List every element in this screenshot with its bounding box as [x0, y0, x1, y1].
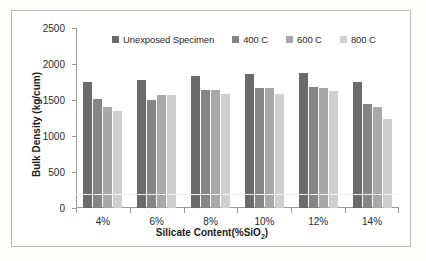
x-axis-tick: [237, 208, 238, 213]
x-axis-title-tail: ): [265, 227, 268, 238]
bar: [93, 99, 102, 208]
bar: [147, 100, 156, 208]
plot-area: 05001000150020002500 4%6%8%10%12%14%: [76, 28, 399, 208]
y-axis-tick-label: 500: [48, 167, 65, 178]
bar: [157, 95, 166, 208]
x-axis-tick-label: 8%: [184, 216, 238, 227]
x-axis-tick-label: 4%: [76, 216, 130, 227]
y-axis-tick-label: 0: [59, 203, 65, 214]
bar-groups: 4%6%8%10%12%14%: [76, 28, 399, 208]
bar: [255, 88, 264, 208]
x-axis-tick: [130, 208, 131, 213]
faint-gridline: [76, 194, 399, 195]
y-axis-tick-label: 1500: [43, 95, 65, 106]
bar: [373, 107, 382, 208]
bar: [167, 95, 176, 208]
x-axis-tick-label: 6%: [130, 216, 184, 227]
bar: [309, 87, 318, 208]
x-axis-tick-label: 10%: [237, 216, 291, 227]
bar: [103, 107, 112, 208]
bar: [211, 90, 220, 208]
chart-plot-frame: Unexposed Specimen 400 C 600 C 800 C Bul…: [11, 10, 411, 247]
x-axis-tick: [398, 208, 399, 213]
bar-group: 6%: [130, 28, 184, 208]
y-axis-tick-label: 2000: [43, 59, 65, 70]
bar-group: 8%: [184, 28, 238, 208]
bar: [245, 74, 254, 208]
bar: [83, 82, 92, 208]
bar: [299, 73, 308, 208]
y-axis-tick-label: 1000: [43, 131, 65, 142]
x-axis-tick: [345, 208, 346, 213]
x-axis-tick-label: 14%: [345, 216, 399, 227]
x-axis-tick: [184, 208, 185, 213]
y-axis-tick-label: 2500: [43, 23, 65, 34]
x-axis-tick: [291, 208, 292, 213]
bar-group: 14%: [345, 28, 399, 208]
bar-group: 12%: [291, 28, 345, 208]
bar: [353, 82, 362, 208]
bar: [319, 88, 328, 208]
y-axis-title: Bulk Density (kg/cum): [31, 55, 42, 195]
bar: [329, 91, 338, 208]
x-axis-tick: [76, 208, 77, 213]
x-axis-title-main: Silicate Content(%SiO: [156, 227, 261, 238]
bar: [221, 94, 230, 208]
x-axis-tick-label: 12%: [291, 216, 345, 227]
bar: [201, 90, 210, 208]
chart-figure: Unexposed Specimen 400 C 600 C 800 C Bul…: [0, 0, 426, 261]
bar: [363, 104, 372, 208]
bar: [265, 88, 274, 208]
bar: [191, 76, 200, 208]
bar-group: 10%: [237, 28, 291, 208]
x-axis-title: Silicate Content(%SiO2): [12, 227, 412, 240]
bar: [275, 94, 284, 208]
bar: [137, 80, 146, 208]
bar-group: 4%: [76, 28, 130, 208]
